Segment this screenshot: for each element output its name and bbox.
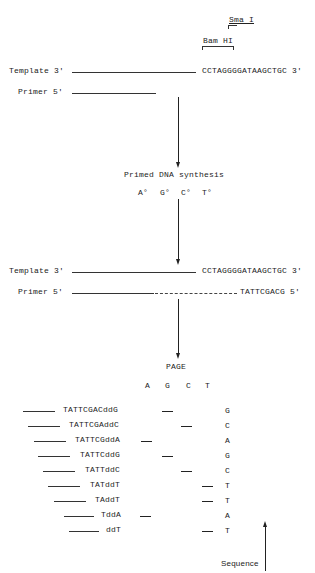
template-sequence-2: CCTAGGGGATAAGCTGC 3': [202, 266, 302, 276]
fragment-line: [23, 411, 55, 412]
sequence-label: Sequence: [221, 559, 259, 569]
sequence-read: A: [225, 511, 230, 521]
arrow-line-1: [178, 97, 179, 165]
gel-band-g: [162, 411, 173, 412]
gel-band-t: [202, 486, 213, 487]
fragment-line: [48, 486, 80, 487]
fragment-sequence: TATTCGAddC: [69, 420, 119, 430]
template-strand-1: [72, 72, 196, 73]
arrow-down-icon: [176, 162, 180, 168]
fragment-line: [34, 441, 66, 442]
bam-hi-label: Bam HI: [203, 36, 233, 46]
template-sequence-1: CCTAGGGGATAAGCTGC 3': [202, 66, 302, 76]
lane-g-header: G: [165, 381, 170, 391]
lane-c-header: C: [186, 381, 191, 391]
new-synthesis-strand: [155, 293, 237, 294]
sequence-read: C: [225, 421, 230, 431]
gel-band-t: [202, 501, 213, 502]
arrow-line-3: [178, 299, 179, 356]
sequence-read: C: [225, 466, 230, 476]
nucleotide-c: C°: [181, 188, 191, 198]
nucleotide-a: A°: [138, 188, 148, 198]
fragment-line: [69, 531, 99, 532]
arrow-down-icon: [176, 259, 180, 265]
fragment-sequence: ddT: [106, 525, 121, 535]
synthesis-title: Primed DNA synthesis: [124, 170, 224, 180]
gel-band-c: [181, 426, 192, 427]
primer-strand-1: [72, 93, 156, 94]
fragment-sequence: TATTddC: [85, 465, 120, 475]
sequence-read: G: [225, 406, 230, 416]
sequence-read: T: [225, 481, 230, 491]
sequence-read: A: [225, 436, 230, 446]
primer-strand-2: [72, 293, 154, 294]
fragment-sequence: TATddT: [90, 480, 120, 490]
primer-label-2: Primer 5': [18, 287, 63, 297]
fragment-sequence: TATTCddG: [80, 450, 120, 460]
sequence-read: T: [225, 496, 230, 506]
nucleotide-t: T°: [202, 188, 212, 198]
sma-i-label: Sma I: [229, 15, 254, 25]
page-title: PAGE: [166, 362, 186, 372]
sma-i-bracket: [228, 25, 237, 29]
fragment-sequence: TATTCGACddG: [63, 405, 118, 415]
sequence-read: T: [225, 526, 230, 536]
nucleotide-g: G°: [160, 188, 170, 198]
extension-sequence: TATTCGACG 5': [240, 287, 300, 297]
lane-a-header: A: [145, 381, 150, 391]
bam-hi-bracket: [202, 46, 234, 50]
gel-band-g: [162, 456, 173, 457]
fragment-line: [38, 456, 70, 457]
gel-band-a: [141, 441, 152, 442]
fragment-line: [28, 426, 60, 427]
sequence-arrow-line: [265, 526, 266, 571]
gel-band-c: [181, 471, 192, 472]
fragment-sequence: TATTCGddA: [75, 435, 120, 445]
sequence-read: G: [225, 451, 230, 461]
gel-band-a: [140, 516, 151, 517]
lane-t-header: T: [205, 381, 210, 391]
arrow-line-2: [178, 199, 179, 262]
fragment-sequence: TAddT: [95, 495, 120, 505]
fragment-sequence: TddA: [101, 510, 121, 520]
fragment-line: [54, 501, 86, 502]
fragment-line: [64, 516, 94, 517]
template-label-2: Template 3': [9, 266, 64, 276]
primer-label-1: Primer 5': [18, 87, 63, 97]
gel-band-t: [202, 531, 213, 532]
fragment-line: [43, 471, 75, 472]
template-strand-2: [72, 272, 196, 273]
template-label-1: Template 3': [9, 66, 64, 76]
arrow-down-icon: [176, 353, 180, 359]
